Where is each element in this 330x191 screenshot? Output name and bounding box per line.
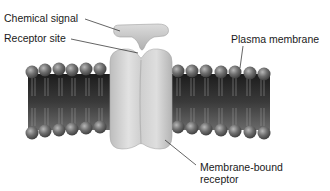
label-receptor-site: Receptor site [4, 32, 66, 44]
label-plasma-membrane: Plasma membrane [231, 33, 319, 45]
label-chemical-signal: Chemical signal [4, 12, 78, 24]
label-membrane-bound-receptor-line2: receptor [200, 173, 239, 185]
diagram-canvas: Chemical signal Receptor site Plasma mem… [0, 0, 330, 191]
chemical-signal [114, 24, 169, 50]
label-membrane-bound-receptor-line1: Membrane-bound [200, 161, 283, 173]
membrane-bound-receptor [110, 49, 172, 149]
